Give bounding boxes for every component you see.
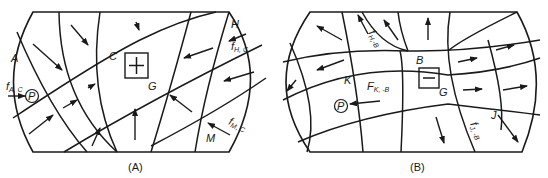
panel-a: P A C G H M fA, C fH, C fM, C (A) — [6, 12, 266, 173]
force-label-m-c: fM, C — [227, 115, 249, 134]
region-label-b: B — [416, 54, 423, 66]
region-label-a: A — [10, 52, 18, 64]
region-label-j: J — [490, 109, 497, 121]
point-p-label-b: P — [337, 100, 345, 112]
caption-b: (B) — [410, 161, 425, 173]
region-label-g: G — [148, 80, 157, 92]
force-label-j-b: fJ, -B — [467, 120, 486, 142]
panel-b: P B K G J fH,-B FK, -B fJ, -B (B) — [283, 12, 540, 173]
panel-b-boundary — [286, 12, 536, 152]
panel-a-boundary — [14, 12, 251, 152]
force-label-k-b: FK, -B — [367, 80, 390, 93]
force-label-h-c: fH, C — [231, 40, 249, 53]
region-label-c: C — [109, 50, 117, 62]
force-label-a-c: fA, C — [6, 80, 24, 93]
point-p-label: P — [28, 90, 36, 102]
region-label-k: K — [344, 74, 352, 86]
region-label-m: M — [206, 132, 216, 144]
plus-icon — [129, 57, 144, 74]
region-label-g-b: G — [439, 86, 448, 98]
field-diagram: P A C G H M fA, C fH, C fM, C (A) — [0, 0, 548, 178]
caption-a: (A) — [128, 161, 143, 173]
region-label-h: H — [231, 18, 239, 30]
